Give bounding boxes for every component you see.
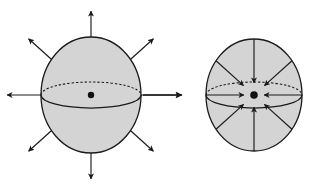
sphere-center-dot [88, 92, 94, 98]
sphere-center-dot [250, 91, 258, 99]
sphere-inward-convergence [206, 39, 302, 151]
physics-divergence-figure [0, 0, 324, 186]
